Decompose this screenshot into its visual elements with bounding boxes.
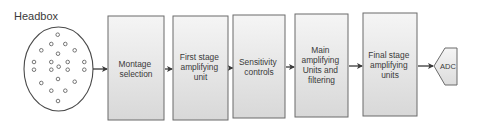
electrode	[50, 42, 54, 46]
block-sensitivity-label: Sensitivity controls	[239, 57, 279, 77]
electrode	[56, 77, 60, 81]
electrode	[56, 99, 60, 103]
block-main-amplifying-units-and-filtering: Main amplifying Units and filtering	[295, 14, 348, 117]
electrode	[66, 68, 70, 72]
electrode	[32, 68, 36, 72]
electrode	[73, 80, 77, 84]
electrode	[83, 68, 87, 72]
electrode	[40, 49, 44, 53]
block-montage-selection-label: Montage selection	[119, 59, 154, 79]
electrode	[56, 52, 60, 56]
adc-label: ADC	[440, 62, 456, 71]
electrode	[50, 68, 54, 72]
headbox-label: Headbox	[14, 10, 59, 22]
electrode	[32, 60, 36, 64]
electrode	[73, 49, 77, 53]
headbox: Headbox	[14, 10, 93, 111]
block-first-stage-amplifying-unit: First stage amplifying unit	[173, 16, 228, 120]
electrode	[57, 65, 61, 69]
electrode	[83, 60, 87, 64]
block-montage-selection: Montage selection	[108, 16, 164, 120]
block-final-stage-amplifying-units: Final stage amplifying units	[363, 13, 417, 116]
eeg-block-diagram: Headbox Montage selection First stage am…	[0, 0, 479, 128]
electrode	[40, 81, 44, 85]
electrode	[56, 33, 60, 37]
electrode	[66, 60, 70, 64]
electrode	[64, 42, 68, 46]
electrode	[64, 89, 68, 93]
electrode	[50, 89, 54, 93]
block-sensitivity-controls: Sensitivity controls	[233, 15, 285, 118]
adc-block: ADC	[434, 48, 457, 85]
electrode	[50, 60, 54, 64]
